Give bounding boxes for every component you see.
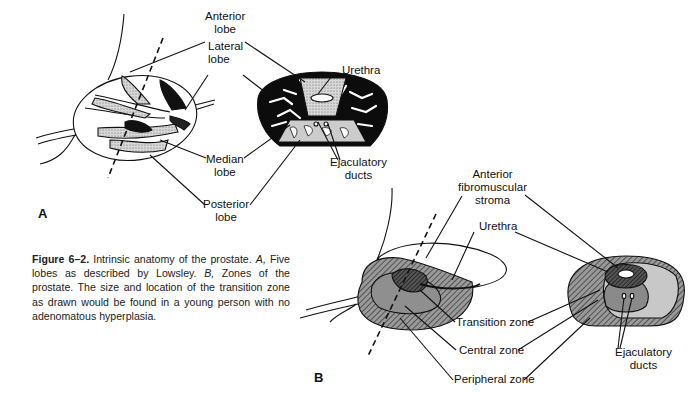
anatomy-illustrations [0,0,699,405]
figure-caption: Figure 6–2. Intrinsic anatomy of the pro… [32,252,290,323]
label-ejaculatory-ducts-b: Ejaculatory ducts [615,346,672,372]
panel-a-sagittal-drawing [36,14,215,205]
label-anterior-lobe: Anterior lobe [205,10,245,36]
figure-6-2: Anterior lobe Lateral lobe Median lobe P… [0,0,699,405]
panel-letter-b: B [314,370,323,385]
panel-letter-a: A [38,206,47,221]
label-urethra-b: Urethra [479,220,517,233]
label-transition-zone: Transition zone [456,316,534,329]
label-anterior-fibromuscular-stroma: Anterior fibromuscular stroma [458,168,527,207]
label-lateral-lobe: Lateral lobe [208,40,243,66]
label-peripheral-zone: Peripheral zone [454,373,535,386]
figure-number: Figure 6–2. [32,253,89,265]
label-median-lobe: Median lobe [206,153,244,179]
label-urethra-a: Urethra [342,64,380,77]
label-central-zone: Central zone [459,344,524,357]
label-ejaculatory-ducts-a: Ejaculatory ducts [330,156,387,182]
label-posterior-lobe: Posterior lobe [203,198,249,224]
